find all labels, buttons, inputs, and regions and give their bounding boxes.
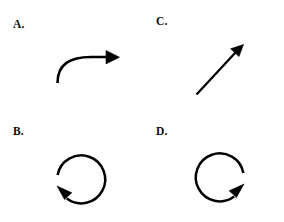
option-label-d: D.: [156, 126, 168, 138]
circular-arrow-clockwise-icon: [57, 155, 105, 203]
option-label-a: A.: [13, 19, 25, 31]
arrow-glyph-layer: [0, 0, 284, 222]
figure-canvas: A. C. B. D.: [0, 0, 284, 222]
option-label-b: B.: [13, 126, 24, 138]
diagonal-arrow-up-right-icon: [197, 45, 244, 95]
curved-arrow-right-icon: [58, 51, 120, 84]
option-label-c: C.: [156, 16, 168, 28]
circular-arrow-counterclockwise-icon: [196, 153, 244, 201]
